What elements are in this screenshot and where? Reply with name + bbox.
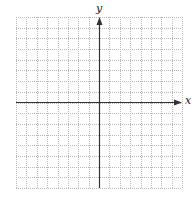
axes xyxy=(16,17,182,188)
x-axis-label: x xyxy=(185,95,191,106)
coordinate-plane xyxy=(0,0,196,205)
y-axis-label: y xyxy=(96,3,102,14)
x-axis-arrow-icon xyxy=(174,100,182,106)
y-axis-arrow-icon xyxy=(97,17,103,25)
